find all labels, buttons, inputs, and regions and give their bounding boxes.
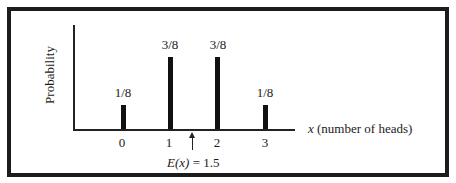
bar-3 xyxy=(263,105,268,129)
x-tick-3: 3 xyxy=(255,135,275,151)
expectation-annotation: E(x) = 1.5 xyxy=(167,155,219,171)
expectation-symbol: E(x) xyxy=(167,155,189,170)
expectation-value: = 1.5 xyxy=(189,155,219,170)
bar-1 xyxy=(168,57,173,129)
x-tick-0: 0 xyxy=(112,135,132,151)
x-axis-label: x (number of heads) xyxy=(308,121,412,137)
y-axis-line xyxy=(73,25,75,130)
x-tick-1: 1 xyxy=(159,135,179,151)
y-axis-label: Probability xyxy=(42,46,58,104)
bar-value-label-3: 1/8 xyxy=(245,85,285,101)
bar-2 xyxy=(215,57,220,129)
bar-value-label-1: 3/8 xyxy=(150,37,190,53)
bar-0 xyxy=(121,105,126,129)
x-axis-line xyxy=(73,129,295,131)
x-axis-label-text: (number of heads) xyxy=(314,121,413,136)
bar-value-label-0: 1/8 xyxy=(103,85,143,101)
expectation-arrow-line xyxy=(192,134,193,150)
bar-value-label-2: 3/8 xyxy=(198,37,238,53)
x-tick-2: 2 xyxy=(207,135,227,151)
